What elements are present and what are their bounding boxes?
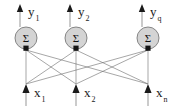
synapse-head-marker [145,46,150,51]
output-yq-label-base: y [150,4,157,19]
output-arrowhead-icon [67,4,73,12]
input-arrowhead-icon [22,84,29,93]
input-arrowhead-icon [72,84,79,93]
input-x2-label-base: x [84,85,91,100]
output-y1-label-base: y [28,4,35,19]
output-y2-label-base: y [78,4,85,19]
network-canvas: ΣΣΣ y1y2yqx1x2xn [0,0,177,108]
output-yq-label-subscript: q [158,14,162,23]
input-xn-label: xn [156,85,168,104]
input-x2-label-subscript: 2 [92,95,96,104]
synapse-heads-group [23,46,150,51]
input-xn-label-base: x [156,85,163,100]
input-x2-label: x2 [84,85,96,104]
synapse-head-marker [73,46,78,51]
input-x1-label-base: x [34,85,41,100]
sigma-icon: Σ [73,32,79,44]
output-y2-label-subscript: 2 [86,14,90,23]
input-x1-label: x1 [34,85,46,104]
connection-lines-group [26,50,148,84]
output-arrowhead-icon [139,4,145,12]
synapse-head-marker [23,46,28,51]
neural-network-diagram: ΣΣΣ y1y2yqx1x2xn [0,0,177,108]
output-y1-label-subscript: 1 [36,14,40,23]
input-x1-label-subscript: 1 [42,95,46,104]
input-xn-label-subscript: n [164,95,168,104]
neuron-nodes-group: ΣΣΣ [15,27,159,49]
output-y2-label: y2 [78,4,90,23]
output-y1-label: y1 [28,4,40,23]
input-arrowhead-icon [144,84,151,93]
output-yq-label: yq [150,4,162,23]
sigma-icon: Σ [145,32,151,44]
sigma-icon: Σ [23,32,29,44]
output-arrowhead-icon [17,4,23,12]
